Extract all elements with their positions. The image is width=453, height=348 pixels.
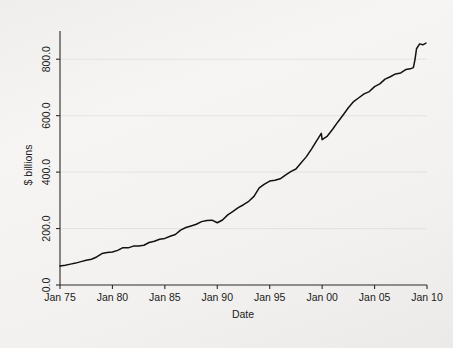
- x-tick-label: Jan 85: [149, 291, 181, 303]
- y-axis-ticks-group: 0.0200.0400.0600.0800.0: [40, 46, 60, 292]
- gridlines-group: [60, 59, 427, 228]
- x-axis-ticks-group: Jan 75Jan 80Jan 85Jan 90Jan 95Jan 00Jan …: [44, 285, 443, 303]
- y-tick-label: 800.0: [40, 46, 52, 72]
- x-tick-label: Jan 90: [202, 291, 234, 303]
- y-tick-label: 600.0: [40, 102, 52, 128]
- x-axis-title: Date: [232, 308, 254, 320]
- y-tick-label: 200.0: [40, 215, 52, 241]
- x-tick-label: Jan 10: [411, 291, 443, 303]
- x-tick-label: Jan 95: [254, 291, 286, 303]
- x-tick-label: Jan 05: [359, 291, 391, 303]
- data-series-line: [60, 43, 426, 266]
- y-tick-label: 400.0: [40, 159, 52, 185]
- figure-container: 0.0200.0400.0600.0800.0 Jan 75Jan 80Jan …: [0, 0, 453, 348]
- x-tick-label: Jan 00: [306, 291, 338, 303]
- line-chart: 0.0200.0400.0600.0800.0 Jan 75Jan 80Jan …: [0, 0, 453, 348]
- x-tick-label: Jan 75: [44, 291, 76, 303]
- y-axis-title: $ billions: [22, 145, 34, 186]
- x-tick-label: Jan 80: [97, 291, 129, 303]
